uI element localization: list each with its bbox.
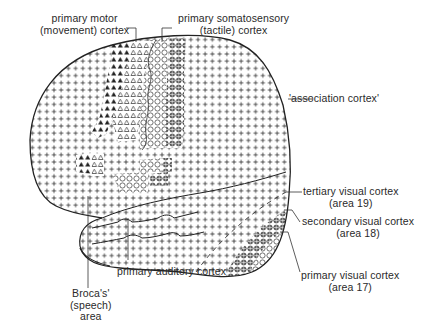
tertiary-visual-label-line1: tertiary visual cortex [303,186,399,198]
primary-visual-leader-line [280,232,300,272]
motor-label-line1: primary motor [40,13,129,25]
tertiary-visual-label: tertiary visual cortex (area 19) [303,186,399,209]
secondary-visual-label-line1: secondary visual cortex [302,216,414,228]
tertiary-visual-label-line2: (area 19) [303,198,399,210]
broca-label-line1: Broca's' [70,288,112,300]
motor-label-line2: (movement) cortex [40,25,129,37]
association-cortex-label: 'association cortex' [289,93,379,105]
primary-visual-label: primary visual cortex (area 17) [301,270,399,293]
primary-visual-label-line1: primary visual cortex [301,270,399,282]
auditory-label-line1: primary auditory cortex [117,266,226,278]
secondary-visual-label-line2: (area 18) [302,228,414,240]
somatosensory-label-line2: (tactile) cortex [178,25,289,37]
somatosensory-cortex-label: primary somatosensory (tactile) cortex [178,13,289,36]
brain-diagram: primary motor (movement) cortex primary … [0,0,426,329]
secondary-visual-label: secondary visual cortex (area 18) [302,216,414,239]
association-label-line1: 'association cortex' [289,93,379,105]
broca-area-label: Broca's' (speech) area [70,288,112,323]
auditory-cortex-label: primary auditory cortex [117,266,226,278]
primary-visual-label-line2: (area 17) [301,282,399,294]
broca-label-line3: area [70,311,112,323]
motor-cortex-label: primary motor (movement) cortex [40,13,129,36]
somatosensory-label-line1: primary somatosensory [178,13,289,25]
